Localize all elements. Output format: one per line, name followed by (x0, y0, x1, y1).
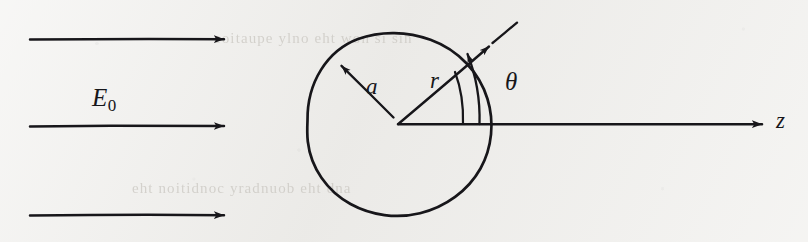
field-arrow-bottom (30, 215, 224, 216)
incident-field-arrow-group (30, 39, 224, 216)
field-arrow-top (30, 39, 224, 40)
radial-ray-extension (493, 23, 518, 43)
physics-diagram-figure: eoitaupe ylno eht won si sih eht noitidn… (0, 0, 808, 242)
theta-angle-arc-inner (455, 72, 463, 124)
sphere-radius-label: a (366, 74, 378, 100)
field-magnitude-symbol: E (92, 84, 107, 111)
diagram-ink-layer (0, 0, 808, 242)
field-magnitude-label: E0 (92, 84, 116, 116)
z-axis-label: z (776, 108, 785, 134)
field-arrow-middle (30, 126, 224, 127)
polar-angle-label: θ (505, 68, 517, 96)
radial-coordinate-label: r (430, 68, 439, 94)
field-magnitude-subscript: 0 (108, 96, 117, 115)
